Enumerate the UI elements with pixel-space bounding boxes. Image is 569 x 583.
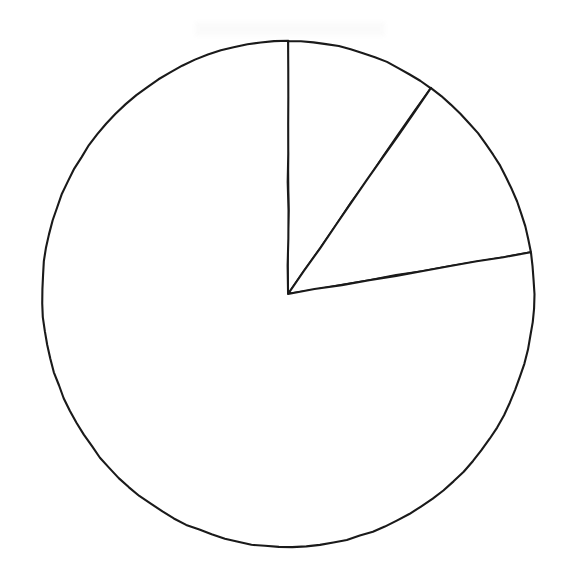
pie-chart-figure (0, 0, 569, 583)
pie-chart-svg (0, 0, 569, 583)
pie-slices-group (42, 41, 534, 547)
